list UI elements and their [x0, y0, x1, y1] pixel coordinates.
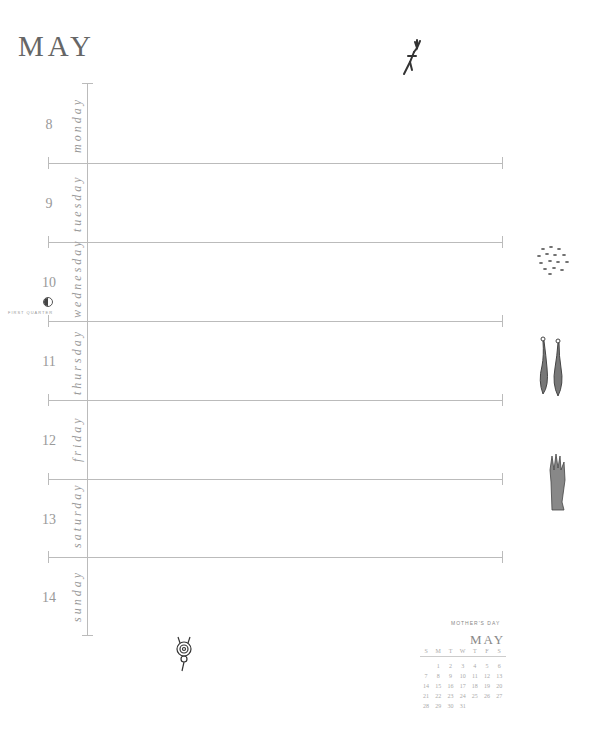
raised-hand-icon [548, 452, 568, 514]
spiral-creature-icon [172, 635, 196, 675]
day-number: 14 [34, 590, 64, 606]
divider-bottom-cap [82, 635, 93, 636]
day-column-divider [87, 83, 88, 635]
holiday-note: MOTHER'S DAY [451, 620, 500, 626]
mini-calendar-week: 78910111213 [420, 671, 506, 681]
day-number: 8 [34, 117, 64, 133]
day-number: 9 [34, 196, 64, 212]
mini-calendar-weekdays: SMTWTFS [420, 646, 506, 657]
mini-calendar: SMTWTFS 123456 78910111213 1415161718192… [420, 646, 506, 711]
day-number: 10 [34, 275, 64, 291]
day-name: sunday [70, 570, 85, 622]
day-name: thursday [70, 329, 85, 395]
day-name: tuesday [70, 174, 85, 232]
day-name: wednesday [70, 238, 85, 318]
running-figure-icon [400, 38, 424, 78]
seeds-cluster-icon [533, 243, 573, 277]
mini-calendar-week: 21222324252627 [420, 691, 506, 701]
day-number: 12 [34, 433, 64, 449]
day-name: monday [70, 97, 85, 153]
day-name: saturday [70, 482, 85, 548]
day-number: 11 [34, 354, 64, 370]
first-quarter-moon-icon [43, 297, 53, 307]
day-name: friday [70, 415, 85, 462]
mini-calendar-week: 123456 [420, 661, 506, 671]
two-gourds-icon [538, 336, 566, 398]
divider-top-cap [82, 83, 93, 84]
moon-phase-label: FIRST QUARTER [8, 310, 53, 315]
mini-calendar-week: 28293031 [420, 701, 506, 711]
page-title: MAY [18, 30, 95, 63]
day-number: 13 [34, 512, 64, 528]
mini-calendar-week: 14151617181920 [420, 681, 506, 691]
